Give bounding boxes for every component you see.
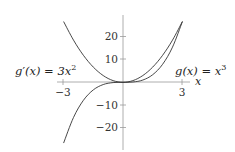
label-derivative-exp: 2 [71,63,76,72]
x-tick-label-3: 3 [179,86,186,98]
label-cubic-fn: g [175,64,182,78]
label-cubic-rest: (x) = x [182,64,221,78]
label-cubic: g(x) = x3 [175,63,226,78]
chart: −3 3 20 10 −10 −20 x g′(x) = 3x2 g(x) = … [0,0,235,152]
y-tick-label-neg10: −10 [96,99,118,111]
x-tick-label-neg3: −3 [55,86,70,98]
label-derivative-rest: (x) = 3x [25,64,72,78]
y-tick-label-10: 10 [105,53,118,65]
label-derivative-fn: g [15,64,22,78]
y-tick-label-neg20: −20 [96,121,118,133]
label-derivative: g′(x) = 3x2 [15,63,76,78]
label-cubic-exp: 3 [221,63,226,72]
y-tick-label-20: 20 [105,30,118,42]
